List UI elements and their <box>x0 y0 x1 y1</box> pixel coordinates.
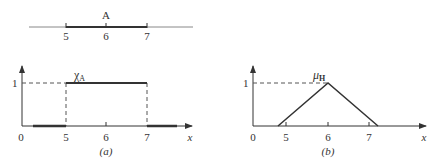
x-tick: 6 <box>325 131 331 143</box>
x-tick: 5 <box>63 131 69 143</box>
x-tick: 6 <box>103 131 109 143</box>
tick-label: 7 <box>144 30 150 42</box>
x-axis-label: x <box>421 131 427 143</box>
caption-b: (b) <box>322 145 335 158</box>
panel-a-chart: 1 0 5 6 7 x χA (a) <box>12 66 193 158</box>
x-tick: 5 <box>283 131 289 143</box>
mu-h-label: μH <box>312 68 326 83</box>
x-tick: 0 <box>250 131 256 143</box>
panel-b-chart: 1 0 5 6 7 x μH (b) <box>243 66 427 158</box>
x-tick: 7 <box>366 131 372 143</box>
set-a-label: A <box>102 9 110 21</box>
tick-label: 6 <box>103 30 109 42</box>
chi-a-label: χA <box>73 68 85 83</box>
x-tick: 0 <box>18 131 24 143</box>
y-tick-1: 1 <box>243 77 249 89</box>
caption-a: (a) <box>100 145 113 158</box>
x-axis-label: x <box>187 131 193 143</box>
y-tick-1: 1 <box>12 77 18 89</box>
mu-h-triangle <box>278 83 378 126</box>
x-tick: 7 <box>144 131 150 143</box>
tick-label: 5 <box>63 30 69 42</box>
diagram-canvas: A 5 6 7 1 0 5 6 7 x χA (a) 1 0 5 6 7 <box>0 0 440 165</box>
top-number-line: A 5 6 7 <box>29 9 193 42</box>
